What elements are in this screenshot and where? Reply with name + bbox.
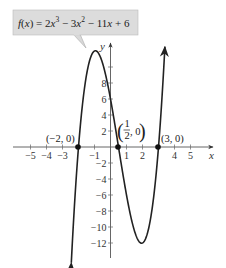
- y-tick-label: −2: [96, 158, 107, 169]
- y-tick-label: −12: [91, 238, 107, 249]
- equation-text: f(x) = 2x3 − 3x2 − 11x + 6: [18, 15, 130, 30]
- y-tick-label: −6: [96, 190, 107, 201]
- x-tick-label: −3: [57, 150, 68, 161]
- x-tick-label: 2: [140, 150, 145, 161]
- fraction-numerator: 1: [125, 118, 130, 129]
- y-tick-label: 8: [102, 78, 107, 89]
- x-axis-label: x: [208, 149, 214, 161]
- equation-callout: f(x) = 2x3 − 3x2 − 11x + 6: [13, 10, 138, 48]
- svg-text:): ): [139, 120, 146, 143]
- y-axis-label: y: [99, 40, 105, 52]
- x-tick-label: −5: [25, 150, 36, 161]
- y-tick-label: 4: [102, 110, 107, 121]
- function-curve: [71, 47, 165, 263]
- y-tick-label: 2: [102, 126, 107, 137]
- x-tick-label: 1: [124, 150, 129, 161]
- x-tick-label: 5: [188, 150, 193, 161]
- y-tick-label: −4: [96, 174, 107, 185]
- point-label: (−2, 0): [46, 133, 75, 145]
- fraction-denominator: 2: [125, 130, 130, 141]
- y-tick-label: −10: [91, 222, 107, 233]
- point-label: (3, 0): [161, 133, 184, 145]
- svg-text:(: (: [117, 120, 124, 143]
- y-tick-label: −8: [96, 206, 107, 217]
- x-intercept-point: [155, 144, 161, 150]
- x-tick-label: −4: [41, 150, 52, 161]
- y-tick-label: 6: [102, 94, 107, 105]
- point-label-half: ( 1 2 , 0 ): [117, 118, 146, 143]
- cubic-function-graph: x y −5−4−3−11245−12−10−8−6−4−22468 (−2, …: [0, 0, 226, 268]
- x-tick-label: 4: [172, 150, 177, 161]
- x-intercept-point: [115, 144, 121, 150]
- x-intercept-point: [75, 144, 81, 150]
